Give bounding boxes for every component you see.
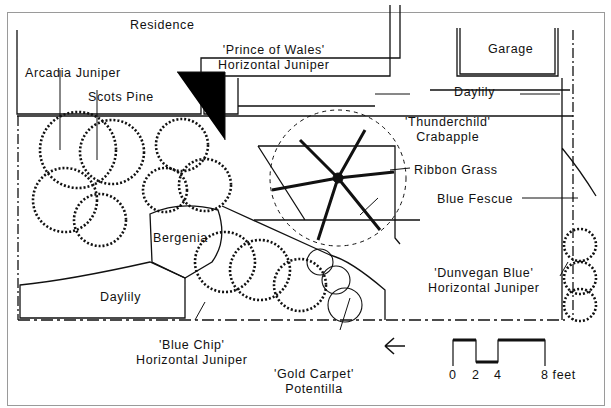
dunvegan-blue-label: 'Dunvegan Blue' Horizontal Juniper (428, 266, 540, 296)
dunvegan-juniper-shape (564, 229, 596, 261)
thunderchild-crabapple-label: 'Thunderchild' Crabapple (405, 115, 490, 145)
blue-chip-label: 'Blue Chip' Horizontal Juniper (136, 338, 248, 368)
gold-carpet-label: 'Gold Carpet' Potentilla (274, 367, 354, 397)
daylily-top-label: Daylily (454, 85, 495, 100)
scale-tick-0: 0 (449, 368, 457, 383)
scale-tick-8: 8 feet (541, 368, 576, 383)
arcadia-juniper-shape (40, 112, 116, 188)
prince-of-wales-juniper-shape (156, 119, 208, 171)
crabapple-shape (270, 110, 406, 246)
north-arrow-icon (385, 338, 405, 354)
daylily-bottom-label: Daylily (100, 290, 141, 305)
blue-fescue-label: Blue Fescue (437, 192, 513, 207)
scots-pine-label: Scots Pine (88, 90, 154, 105)
scale-bar (453, 340, 545, 366)
ribbon-grass-label: Ribbon Grass (414, 163, 498, 178)
prince-of-wales-label: 'Prince of Wales' Horizontal Juniper (218, 43, 330, 73)
arcadia-juniper-label: Arcadia Juniper (25, 66, 121, 81)
scale-tick-4: 4 (494, 368, 502, 383)
bergenia-label: Bergenia (153, 231, 208, 246)
scale-tick-2: 2 (472, 368, 480, 383)
garage-label: Garage (488, 42, 533, 57)
residence-label: Residence (130, 18, 194, 33)
